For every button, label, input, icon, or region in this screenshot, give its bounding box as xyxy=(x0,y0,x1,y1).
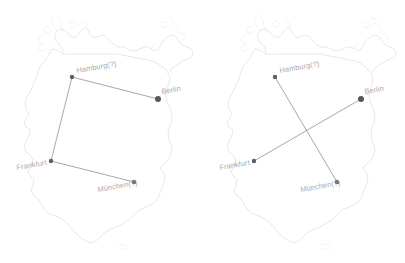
city-label-muenchen: München(?) xyxy=(300,178,341,194)
city-labels-right: Hamburg(?) Berlin Frankfurt München(?) xyxy=(219,59,385,194)
map-panel-left: Hamburg(?) Berlin Frankfurt München(?) xyxy=(0,0,202,263)
tour-edges-right xyxy=(254,77,361,182)
city-label-hamburg: Hamburg(?) xyxy=(76,59,117,75)
map-panel-right: Hamburg(?) Berlin Frankfurt München(?) xyxy=(203,0,405,263)
marker-berlin xyxy=(358,96,364,102)
edge-hamburg-berlin xyxy=(72,77,158,99)
figure-canvas: Hamburg(?) Berlin Frankfurt München(?) xyxy=(0,0,405,263)
city-labels-left: Hamburg(?) Berlin Frankfurt München(?) xyxy=(16,59,182,194)
map-svg-left: Hamburg(?) Berlin Frankfurt München(?) xyxy=(0,0,202,263)
city-label-berlin: Berlin xyxy=(161,84,182,96)
city-label-frankfurt: Frankfurt xyxy=(16,158,48,172)
marker-frankfurt xyxy=(49,159,53,163)
marker-hamburg xyxy=(273,75,277,79)
city-markers-left xyxy=(49,75,161,184)
edge-frankfurt-berlin xyxy=(254,99,361,161)
edge-frankfurt-muenchen xyxy=(51,161,134,182)
germany-outline-right xyxy=(227,16,396,250)
marker-hamburg xyxy=(70,75,74,79)
city-label-muenchen: München(?) xyxy=(97,178,138,194)
city-label-frankfurt: Frankfurt xyxy=(219,158,251,172)
city-label-hamburg: Hamburg(?) xyxy=(279,59,320,75)
edge-hamburg-muenchen xyxy=(275,77,337,182)
edge-hamburg-frankfurt xyxy=(51,77,72,161)
tour-edges-left xyxy=(51,77,158,182)
marker-frankfurt xyxy=(252,159,256,163)
germany-outline-left xyxy=(24,16,193,250)
city-label-berlin: Berlin xyxy=(364,84,385,96)
map-svg-right: Hamburg(?) Berlin Frankfurt München(?) xyxy=(203,0,405,263)
marker-berlin xyxy=(155,96,161,102)
